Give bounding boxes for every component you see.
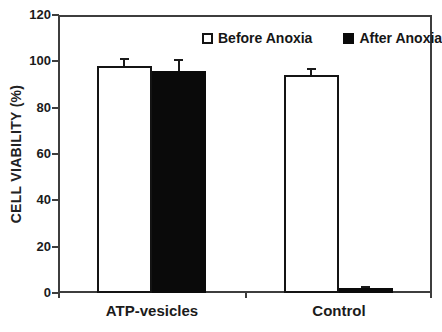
bar-after-anoxia-1: [339, 288, 394, 293]
error-bar-line: [178, 60, 180, 70]
error-bar-cap: [307, 68, 316, 70]
y-axis-tick: [52, 199, 59, 201]
legend-entry-after-anoxia: After Anoxia: [343, 30, 442, 46]
x-axis-tick: [430, 292, 432, 298]
legend-label-before-anoxia: Before Anoxia: [218, 30, 312, 46]
legend-entry-before-anoxia: Before Anoxia: [202, 30, 312, 46]
y-axis-tick-label: 60: [18, 146, 51, 162]
error-bar-cap: [174, 59, 183, 61]
y-axis-tick: [52, 246, 59, 248]
bar-after-anoxia-0: [152, 71, 207, 293]
x-axis-tick: [245, 292, 247, 298]
y-axis-tick-label: 20: [18, 239, 51, 255]
bar-before-anoxia-1: [284, 75, 339, 293]
x-axis-label-atp-vesicles: ATP-vesicles: [106, 302, 198, 319]
y-axis-tick: [52, 107, 59, 109]
y-axis-tick-label: 80: [18, 100, 51, 116]
y-axis-tick-label: 40: [18, 192, 51, 208]
error-bar-cap: [361, 286, 370, 288]
bar-before-anoxia-0: [97, 66, 152, 293]
y-axis-tick: [52, 14, 59, 16]
legend-swatch-after-anoxia-icon: [343, 33, 354, 44]
error-bar-cap: [120, 58, 129, 60]
legend-label-after-anoxia: After Anoxia: [359, 30, 442, 46]
bar-chart-figure: CELL VIABILITY (%) Before Anoxia After A…: [0, 0, 442, 332]
legend-swatch-before-anoxia-icon: [202, 33, 213, 44]
x-axis-label-control: Control: [312, 302, 365, 319]
y-axis-tick: [52, 153, 59, 155]
legend: Before Anoxia After Anoxia: [202, 30, 442, 46]
error-bar-line: [123, 59, 125, 66]
y-axis-tick-label: 120: [18, 7, 51, 23]
x-axis-tick: [58, 292, 60, 298]
y-axis-tick: [52, 60, 59, 62]
y-axis-tick-label: 100: [18, 53, 51, 69]
y-axis-tick-label: 0: [18, 285, 51, 301]
